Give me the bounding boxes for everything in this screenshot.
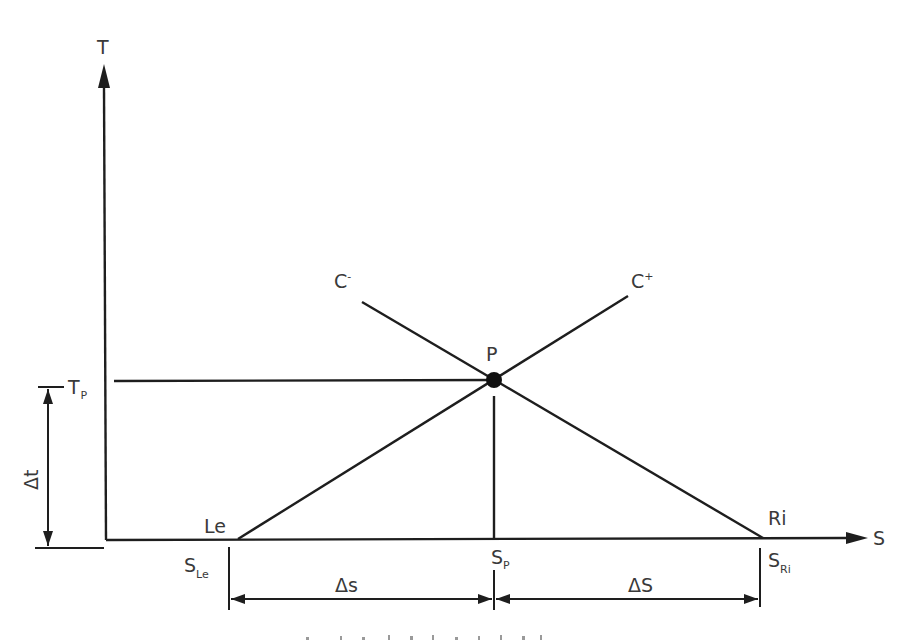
delta-t-dimension bbox=[35, 387, 104, 548]
y-axis-label: T bbox=[96, 36, 109, 58]
point-ri-label: Ri bbox=[768, 507, 786, 529]
delta-s-left-dimension bbox=[231, 594, 492, 604]
tp-label: TP bbox=[67, 376, 88, 402]
c-minus-label: C- bbox=[334, 270, 351, 292]
s-le-label: SLe bbox=[184, 554, 209, 581]
cropped-caption-fragment bbox=[306, 635, 542, 640]
x-axis-label: S bbox=[873, 527, 885, 549]
s-p-label: SP bbox=[491, 546, 510, 572]
tp-horizontal-line bbox=[114, 380, 494, 381]
delta-s-right-dimension bbox=[496, 594, 758, 604]
c-plus-label: C+ bbox=[631, 270, 654, 292]
diagram-canvas: T S P C- C+ Le Ri TP Δt SLe SP SRi bbox=[0, 0, 913, 640]
delta-s-left-label: Δs bbox=[335, 574, 358, 596]
y-axis bbox=[98, 64, 110, 540]
point-p-marker bbox=[486, 372, 502, 388]
delta-s-right-label: ΔS bbox=[628, 574, 653, 596]
c-plus-characteristic bbox=[238, 296, 628, 539]
delta-t-label: Δt bbox=[20, 470, 42, 490]
x-axis-arrowhead-icon bbox=[846, 532, 868, 544]
y-axis-arrowhead-icon bbox=[98, 64, 110, 88]
point-le-label: Le bbox=[204, 515, 226, 537]
point-p-label: P bbox=[486, 343, 497, 365]
s-ri-label: SRi bbox=[768, 549, 791, 576]
